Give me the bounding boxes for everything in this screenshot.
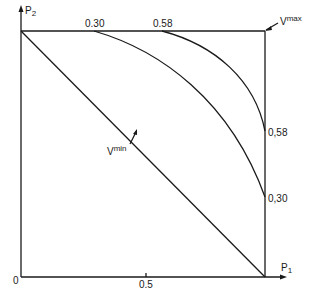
curve-0-30-top-label: 0.30 — [85, 18, 105, 29]
curve-0-58-top-label: 0.58 — [153, 18, 173, 29]
diagram: P2 P1 0 0.5 0.30 0.58 0,58 0,30 Vmin Vma… — [0, 0, 318, 304]
y-axis-arrow-icon — [19, 5, 24, 12]
vmin-label: Vmin — [107, 144, 127, 157]
x-tick-label: 0.5 — [139, 279, 153, 290]
curve-0-30-right-label: 0,30 — [268, 193, 288, 204]
vmax-label: Vmax — [280, 14, 302, 27]
curve-0-58-right-label: 0,58 — [268, 127, 288, 138]
x-axis-arrow-icon — [280, 275, 287, 280]
x-axis-label: P1 — [281, 262, 293, 275]
vmin-arrow-icon — [133, 129, 137, 135]
origin-label: 0 — [13, 275, 19, 286]
vmin-line — [21, 31, 265, 277]
y-axis-label: P2 — [25, 5, 37, 18]
curve-0-58 — [162, 31, 265, 131]
vmax-arrow-icon — [265, 26, 272, 31]
curve-0-30 — [94, 31, 265, 197]
